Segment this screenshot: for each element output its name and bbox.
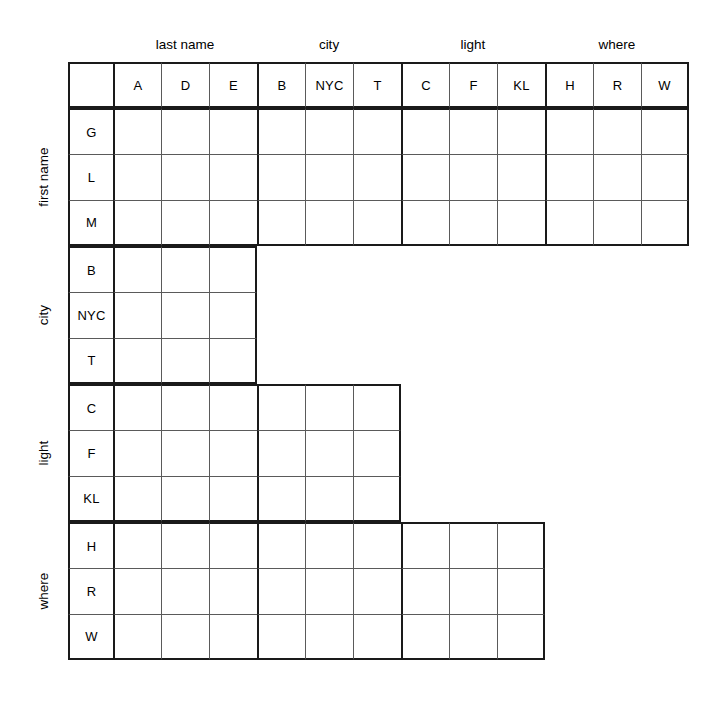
row-header-L: L <box>68 154 113 200</box>
grid-cell[interactable] <box>305 384 353 430</box>
grid-cell[interactable] <box>593 108 641 154</box>
grid-cell[interactable] <box>497 200 545 246</box>
row-header-M: M <box>68 200 113 246</box>
grid-cell[interactable] <box>545 154 593 200</box>
grid-cell[interactable] <box>449 568 497 614</box>
grid-cell[interactable] <box>257 522 305 568</box>
grid-cell[interactable] <box>545 200 593 246</box>
grid-cell[interactable] <box>161 200 209 246</box>
row-header-T: T <box>68 338 113 384</box>
grid-cell[interactable] <box>161 292 209 338</box>
grid-cell[interactable] <box>641 108 689 154</box>
grid-cell[interactable] <box>161 476 209 522</box>
grid-cell[interactable] <box>257 476 305 522</box>
grid-cell[interactable] <box>113 108 161 154</box>
grid-cell[interactable] <box>161 568 209 614</box>
grid-cell[interactable] <box>257 384 305 430</box>
grid-cell[interactable] <box>161 430 209 476</box>
grid-cell[interactable] <box>161 154 209 200</box>
grid-cell[interactable] <box>257 614 305 660</box>
grid-cell[interactable] <box>497 108 545 154</box>
grid-cell[interactable] <box>353 568 401 614</box>
grid-cell[interactable] <box>401 522 449 568</box>
grid-cell[interactable] <box>113 614 161 660</box>
grid-cell[interactable] <box>305 200 353 246</box>
grid-cell[interactable] <box>353 154 401 200</box>
grid-cell[interactable] <box>161 522 209 568</box>
grid-cell[interactable] <box>161 108 209 154</box>
grid-cell[interactable] <box>353 200 401 246</box>
grid-cell[interactable] <box>401 568 449 614</box>
grid-cell[interactable] <box>113 384 161 430</box>
grid-cell[interactable] <box>545 108 593 154</box>
grid-cell[interactable] <box>449 154 497 200</box>
grid-cell[interactable] <box>209 568 257 614</box>
column-header-W: W <box>641 62 689 108</box>
grid-cell[interactable] <box>209 384 257 430</box>
grid-cell[interactable] <box>161 338 209 384</box>
grid-cell[interactable] <box>449 522 497 568</box>
grid-cell[interactable] <box>209 154 257 200</box>
row-header-H: H <box>68 522 113 568</box>
grid-cell[interactable] <box>209 108 257 154</box>
grid-cell[interactable] <box>401 200 449 246</box>
grid-cell[interactable] <box>209 200 257 246</box>
row-header-G: G <box>68 108 113 154</box>
column-group-label-light: light <box>401 38 545 52</box>
grid-cell[interactable] <box>113 154 161 200</box>
grid-cell[interactable] <box>209 246 257 292</box>
grid-cell[interactable] <box>113 292 161 338</box>
grid-cell[interactable] <box>353 476 401 522</box>
grid-cell[interactable] <box>209 292 257 338</box>
grid-cell[interactable] <box>257 200 305 246</box>
grid-cell[interactable] <box>113 430 161 476</box>
grid-cell[interactable] <box>113 522 161 568</box>
grid-cell[interactable] <box>449 200 497 246</box>
grid-cell[interactable] <box>401 154 449 200</box>
grid-cell[interactable] <box>257 154 305 200</box>
grid-cell[interactable] <box>113 246 161 292</box>
grid-cell[interactable] <box>353 614 401 660</box>
grid-cell[interactable] <box>593 200 641 246</box>
grid-cell[interactable] <box>257 430 305 476</box>
row-header-W: W <box>68 614 113 660</box>
grid-cell[interactable] <box>161 246 209 292</box>
grid-cell[interactable] <box>305 476 353 522</box>
grid-cell[interactable] <box>449 108 497 154</box>
grid-cell[interactable] <box>161 384 209 430</box>
grid-cell[interactable] <box>497 568 545 614</box>
grid-cell[interactable] <box>449 614 497 660</box>
grid-cell[interactable] <box>401 614 449 660</box>
grid-cell[interactable] <box>305 568 353 614</box>
grid-cell[interactable] <box>641 154 689 200</box>
grid-cell[interactable] <box>305 154 353 200</box>
grid-cell[interactable] <box>209 614 257 660</box>
grid-cell[interactable] <box>209 430 257 476</box>
grid-cell[interactable] <box>353 522 401 568</box>
grid-cell[interactable] <box>497 614 545 660</box>
row-header-C: C <box>68 384 113 430</box>
grid-cell[interactable] <box>113 338 161 384</box>
grid-cell[interactable] <box>497 154 545 200</box>
grid-cell[interactable] <box>593 154 641 200</box>
grid-cell[interactable] <box>305 108 353 154</box>
column-header-H: H <box>545 62 593 108</box>
grid-cell[interactable] <box>113 476 161 522</box>
grid-cell[interactable] <box>257 108 305 154</box>
grid-cell[interactable] <box>641 200 689 246</box>
grid-cell[interactable] <box>305 430 353 476</box>
grid-cell[interactable] <box>257 568 305 614</box>
grid-cell[interactable] <box>353 430 401 476</box>
grid-cell[interactable] <box>353 108 401 154</box>
grid-cell[interactable] <box>209 522 257 568</box>
grid-cell[interactable] <box>497 522 545 568</box>
grid-cell[interactable] <box>209 476 257 522</box>
grid-cell[interactable] <box>113 568 161 614</box>
grid-cell[interactable] <box>401 108 449 154</box>
grid-cell[interactable] <box>209 338 257 384</box>
grid-cell[interactable] <box>305 614 353 660</box>
grid-cell[interactable] <box>161 614 209 660</box>
grid-cell[interactable] <box>353 384 401 430</box>
grid-cell[interactable] <box>305 522 353 568</box>
grid-cell[interactable] <box>113 200 161 246</box>
